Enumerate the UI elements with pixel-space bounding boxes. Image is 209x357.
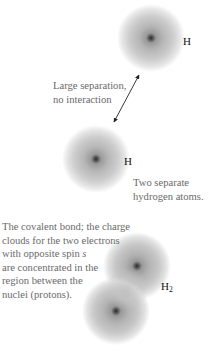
caption-line: are concentrated in the [2, 261, 130, 275]
caption-line: with opposite spin s [2, 247, 130, 261]
covalent-bond-caption: The covalent bond; the charge clouds for… [2, 220, 130, 302]
middle-atom-label: H [124, 156, 132, 167]
middle-hydrogen-electron-cloud [62, 125, 130, 193]
caption-line: Two separate [133, 176, 204, 190]
molecule-label: H2 [161, 281, 173, 295]
molecule-label-subscript: 2 [169, 285, 173, 294]
separate-atoms-caption: Two separate hydrogen atoms. [133, 176, 204, 203]
caption-line: The covalent bond; the charge [2, 220, 130, 234]
caption-line: region between the [2, 274, 130, 288]
caption-line: no interaction [53, 93, 126, 107]
caption-line: hydrogen atoms. [133, 190, 204, 204]
molecule-label-element: H [161, 280, 169, 292]
caption-line: clouds for the two electrons [2, 234, 130, 248]
caption-line: nuclei (protons). [2, 288, 130, 302]
caption-line: Large separation, [53, 79, 126, 93]
caption-line-text: with opposite spin [2, 248, 82, 259]
covalent-bond-diagram: H Large separation, no interaction H Two… [0, 0, 209, 357]
separation-caption: Large separation, no interaction [53, 79, 126, 106]
spin-symbol: s [82, 248, 86, 259]
